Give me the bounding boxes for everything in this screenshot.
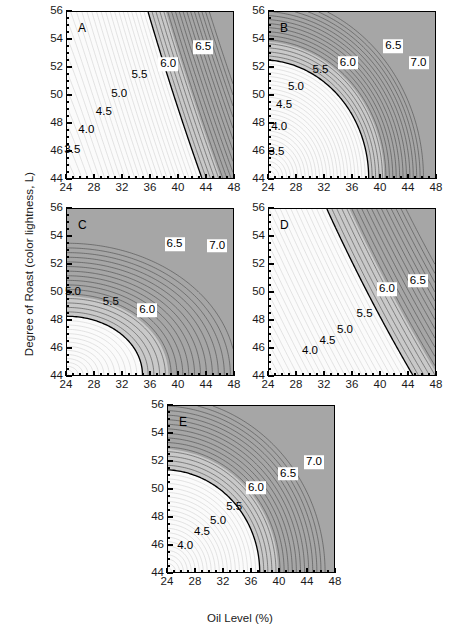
y-tick-label: 48 (252, 314, 265, 326)
x-tick-major (149, 174, 150, 180)
x-tick-major (278, 568, 279, 574)
x-tick-minor (219, 176, 220, 179)
x-tick-minor (201, 570, 202, 573)
contour-surface-a (67, 12, 233, 178)
y-tick-major (66, 347, 72, 348)
y-tick-label: 54 (252, 33, 265, 45)
panel-letter-d: D (280, 218, 289, 232)
x-tick-minor (365, 176, 366, 179)
y-tick-minor (268, 221, 271, 222)
y-tick-minor (66, 361, 69, 362)
x-tick-label: 48 (430, 182, 443, 194)
y-tick-minor (66, 24, 69, 25)
y-tick-minor (66, 157, 69, 158)
y-tick-minor (66, 333, 69, 334)
x-tick-minor (100, 373, 101, 376)
contour-label: 5.0 (111, 88, 127, 100)
x-tick-label: 28 (88, 379, 101, 391)
y-tick-minor (167, 537, 170, 538)
y-tick-minor (268, 59, 271, 60)
x-tick-major (93, 371, 94, 377)
x-tick-minor (170, 373, 171, 376)
y-tick-minor (66, 228, 69, 229)
x-tick-minor (393, 176, 394, 179)
x-tick-minor (285, 570, 286, 573)
x-tick-major (379, 371, 380, 377)
x-tick-major (435, 371, 436, 377)
y-tick-label: 56 (50, 5, 63, 17)
y-tick-minor (66, 249, 69, 250)
y-tick-minor (167, 551, 170, 552)
panel-letter-b: B (280, 21, 288, 35)
plot-area-d (268, 208, 436, 376)
contour-label: 5.5 (132, 70, 148, 82)
contour-label: 6.5 (383, 39, 403, 53)
y-tick-label: 50 (50, 89, 63, 101)
x-tick-label: 24 (60, 182, 73, 194)
contour-label: 5.5 (357, 309, 373, 321)
y-tick-minor (268, 31, 271, 32)
x-tick-minor (142, 373, 143, 376)
y-tick-major (268, 291, 274, 292)
x-tick-label: 48 (329, 576, 342, 588)
x-tick-label: 44 (200, 379, 213, 391)
y-tick-minor (167, 558, 170, 559)
x-tick-minor (309, 373, 310, 376)
contour-label: 4.0 (302, 345, 318, 357)
x-tick-minor (337, 176, 338, 179)
x-tick-label: 40 (273, 576, 286, 588)
x-tick-minor (281, 176, 282, 179)
y-tick-major (66, 319, 72, 320)
x-tick-minor (142, 176, 143, 179)
contour-label: 6.5 (165, 238, 185, 252)
y-tick-label: 50 (50, 286, 63, 298)
x-tick-major (407, 174, 408, 180)
x-tick-minor (229, 570, 230, 573)
y-tick-major (167, 404, 173, 405)
y-tick-minor (268, 17, 271, 18)
x-tick-minor (288, 373, 289, 376)
x-tick-label: 44 (402, 379, 415, 391)
y-tick-minor (66, 73, 69, 74)
x-tick-minor (86, 373, 87, 376)
x-tick-label: 44 (301, 576, 314, 588)
x-tick-minor (337, 373, 338, 376)
contour-label: 4.5 (276, 99, 292, 111)
y-tick-minor (268, 298, 271, 299)
contour-figure: Degree of Roast (color lightness, L) Oil… (0, 0, 463, 635)
x-tick-minor (386, 373, 387, 376)
x-tick-minor (358, 176, 359, 179)
y-tick-minor (268, 312, 271, 313)
panel-letter-e: E (179, 415, 187, 429)
y-tick-label: 46 (50, 342, 63, 354)
x-tick-minor (184, 176, 185, 179)
y-tick-major (268, 207, 274, 208)
y-tick-label: 52 (151, 455, 164, 467)
contour-surface-c (67, 209, 233, 375)
y-tick-minor (66, 101, 69, 102)
y-tick-minor (167, 411, 170, 412)
y-tick-label: 52 (252, 61, 265, 73)
x-tick-minor (330, 373, 331, 376)
x-tick-major (205, 371, 206, 377)
contour-label: 6.0 (338, 56, 358, 70)
x-tick-minor (372, 373, 373, 376)
x-tick-minor (257, 570, 258, 573)
y-tick-minor (268, 101, 271, 102)
y-tick-label: 52 (252, 258, 265, 270)
y-tick-minor (167, 495, 170, 496)
y-tick-minor (268, 326, 271, 327)
y-tick-minor (268, 354, 271, 355)
contour-label: 4.0 (78, 124, 94, 136)
x-tick-minor (114, 373, 115, 376)
x-tick-minor (100, 176, 101, 179)
y-tick-minor (66, 87, 69, 88)
x-tick-label: 48 (228, 182, 241, 194)
y-tick-minor (268, 368, 271, 369)
x-tick-minor (156, 373, 157, 376)
contour-panel-d: D44464850525456242832364044484.04.55.05.… (268, 208, 436, 376)
y-tick-minor (268, 256, 271, 257)
y-tick-minor (268, 340, 271, 341)
y-tick-major (66, 122, 72, 123)
y-tick-label: 56 (151, 399, 164, 411)
